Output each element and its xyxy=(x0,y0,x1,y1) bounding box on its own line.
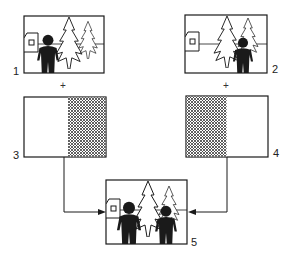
frame-4-matte xyxy=(186,96,268,157)
connector-left xyxy=(64,157,100,212)
frame-3-matte xyxy=(24,97,106,157)
frame-2-scene xyxy=(185,15,267,73)
frame-label-3: 3 xyxy=(13,150,19,161)
plus-sign-left: + xyxy=(60,80,66,91)
arrow-head-right-icon xyxy=(188,209,196,215)
frame-5-composite xyxy=(106,180,187,244)
frame-label-2: 2 xyxy=(272,64,278,75)
frame-1-scene xyxy=(24,16,104,73)
compositing-diagram: + + xyxy=(0,0,291,253)
plus-sign-right: + xyxy=(223,80,229,91)
frame-label-5: 5 xyxy=(191,237,197,248)
frame-label-1: 1 xyxy=(13,66,19,77)
frame-label-4: 4 xyxy=(273,148,279,159)
connector-right xyxy=(194,157,227,212)
arrow-head-left-icon xyxy=(98,209,106,215)
